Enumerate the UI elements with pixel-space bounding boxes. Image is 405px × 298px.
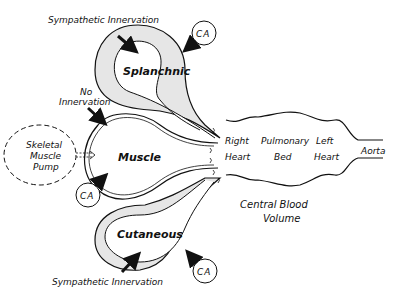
no-innervation-label-2: Innervation: [59, 97, 111, 107]
right-heart-label-1: Right: [225, 136, 249, 146]
no-innervation-label-1: No: [80, 87, 93, 97]
left-heart-label-2: Heart: [314, 152, 340, 162]
svg-text:CA: CA: [197, 267, 211, 277]
aorta-label: Aorta: [360, 146, 385, 156]
central-volume-label-2: Volume: [263, 213, 300, 224]
no-innervation-arrow: [88, 108, 101, 120]
pump-label-3: Pump: [33, 162, 59, 172]
splanchnic-label: Splanchnic: [123, 65, 191, 78]
circulation-diagram: Splanchnic Muscle Cutaneous Sympathetic …: [0, 0, 405, 298]
svg-text:CA: CA: [80, 191, 94, 201]
muscle-label: Muscle: [118, 151, 162, 164]
left-heart-label-1: Left: [316, 136, 334, 146]
splanchnic-innervation-label: Sympathetic Innervation: [48, 15, 159, 25]
central-volume-label-1: Central Blood: [240, 199, 308, 210]
pulmonary-label-1: Pulmonary: [261, 136, 310, 146]
ca-cutaneous: CA: [191, 256, 217, 283]
ca-muscle: CA: [76, 179, 102, 207]
pulmonary-label-2: Bed: [274, 152, 292, 162]
central-blood-volume-outline: [226, 112, 383, 186]
cutaneous-label: Cutaneous: [117, 228, 183, 241]
ca-splanchnic: CA: [189, 21, 216, 47]
cutaneous-innervation-label: Sympathetic Innervation: [52, 277, 163, 287]
pump-label-1: Skeletal: [26, 140, 63, 150]
right-heart-label-2: Heart: [225, 152, 251, 162]
svg-text:CA: CA: [196, 29, 210, 39]
pump-label-2: Muscle: [30, 151, 62, 161]
